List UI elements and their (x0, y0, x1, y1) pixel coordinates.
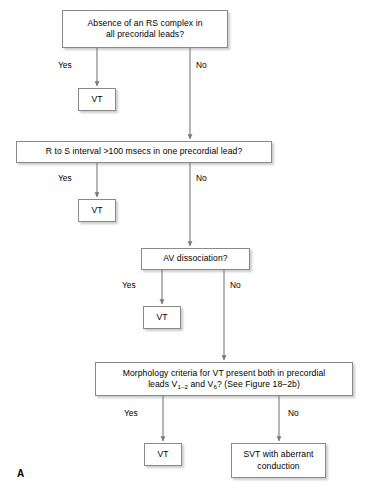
decision-4-line-1: Morphology criteria for VT present both … (123, 368, 326, 378)
decision-4-subscript-v1-2: 1–2 (177, 383, 188, 390)
decision-4-subscript-v6: 6 (213, 383, 217, 390)
panel-label-a: A (17, 468, 24, 479)
edge-label-no-4: No (288, 408, 299, 418)
decision-1-line-2: all precoridal leads? (106, 29, 184, 39)
decision-box-absence-of-rs-complex: Absence of an RS complex in all precorid… (62, 10, 228, 48)
terminal-box-vt-3: VT (143, 306, 181, 329)
decision-4-line-2-a: leads V (148, 379, 177, 389)
decision-box-r-to-s-interval: R to S interval >100 msecs in one precor… (16, 141, 272, 163)
edge-label-yes-2: Yes (58, 173, 72, 183)
terminal-box-vt-2: VT (78, 199, 116, 222)
terminal-vt-4-label: VT (153, 449, 172, 461)
terminal-box-svt-aberrant-conduction: SVT with aberrant conduction (231, 443, 326, 478)
decision-4-line-2-c: ? (See Figure 18–2b) (217, 379, 300, 389)
terminal-svt-label: SVT with aberrant conduction (239, 449, 317, 472)
decision-3-text: AV dissociation? (159, 253, 231, 265)
decision-box-morphology-criteria: Morphology criteria for VT present both … (95, 362, 353, 396)
terminal-svt-line-2: conduction (257, 461, 299, 471)
terminal-vt-3-label: VT (152, 312, 171, 324)
decision-4-text: Morphology criteria for VT present both … (119, 368, 330, 391)
terminal-vt-1-label: VT (87, 94, 106, 106)
terminal-box-vt-4: VT (144, 443, 182, 466)
decision-box-av-dissociation: AV dissociation? (141, 248, 250, 270)
terminal-box-vt-1: VT (78, 88, 116, 111)
edge-label-no-1: No (196, 60, 207, 70)
decision-1-text: Absence of an RS complex in all precorid… (83, 18, 206, 41)
terminal-vt-2-label: VT (87, 205, 106, 217)
flowchart-canvas: Absence of an RS complex in all precorid… (0, 0, 370, 490)
edge-label-yes-1: Yes (58, 60, 72, 70)
edge-label-yes-3: Yes (122, 280, 136, 290)
connector-layer (0, 0, 370, 490)
edge-label-no-2: No (196, 173, 207, 183)
decision-4-line-2-b: and V (188, 379, 213, 389)
terminal-svt-line-1: SVT with aberrant (243, 449, 313, 459)
edge-label-no-3: No (230, 280, 241, 290)
decision-1-line-1: Absence of an RS complex in (87, 18, 202, 28)
decision-2-text: R to S interval >100 msecs in one precor… (42, 146, 247, 158)
edge-label-yes-4: Yes (124, 408, 138, 418)
